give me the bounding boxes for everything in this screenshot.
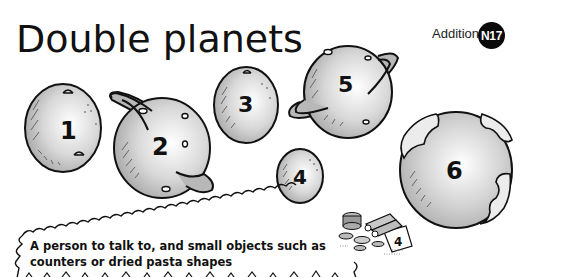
planet-1-label: 1 <box>60 117 77 145</box>
planet-3: 3 <box>214 67 278 143</box>
planet-4-label: 4 <box>293 165 307 189</box>
planets-illustration: 1 2 3 5 4 <box>0 0 587 277</box>
number-card-label: 4 <box>394 235 402 249</box>
planet-5-label: 5 <box>338 72 353 97</box>
planet-5: 5 <box>289 46 398 138</box>
planet-2: 2 <box>110 92 213 198</box>
planet-6: 6 <box>400 112 512 228</box>
planet-2-label: 2 <box>152 133 169 161</box>
planet-4: 4 <box>277 149 323 203</box>
planet-3-label: 3 <box>238 92 253 117</box>
planet-6-label: 6 <box>446 157 463 185</box>
resources-text: A person to talk to, and small objects s… <box>30 238 360 270</box>
planet-1: 1 <box>25 84 101 172</box>
